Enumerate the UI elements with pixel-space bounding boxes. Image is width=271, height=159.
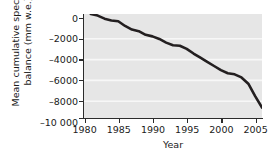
chart-figure: Mean cumulative specific net balance (mm… — [0, 0, 271, 159]
x-tick-label: 1990 — [136, 124, 170, 135]
x-tick-label: 1995 — [170, 124, 204, 135]
x-tick-label: 2000 — [204, 124, 238, 135]
x-tick-mark — [187, 119, 188, 123]
x-tick-label: 1985 — [102, 124, 136, 135]
y-tick-label: –2000 — [32, 34, 78, 44]
x-tick-mark — [119, 119, 120, 123]
data-series-line — [91, 14, 262, 108]
y-axis-spine — [83, 14, 84, 119]
y-axis-ticks: 0 –2000 –4000 –6000 –8000 –10 000 — [30, 0, 78, 159]
x-axis-spine — [83, 118, 263, 119]
x-tick-label: 1980 — [68, 124, 102, 135]
y-tick-mark — [79, 118, 83, 119]
y-tick-label: –4000 — [32, 55, 78, 65]
y-tick-mark — [79, 80, 83, 81]
x-tick-mark — [221, 119, 222, 123]
x-tick-mark — [153, 119, 154, 123]
y-tick-label: –8000 — [32, 97, 78, 107]
y-tick-mark — [79, 39, 83, 40]
y-axis-label-line1: Mean cumulative specific net — [10, 0, 22, 107]
plot-svg — [84, 14, 262, 118]
gridlines — [84, 39, 262, 101]
x-axis-label: Year — [84, 139, 262, 150]
y-tick-mark — [79, 18, 83, 19]
y-tick-mark — [79, 59, 83, 60]
x-tick-label: 2005 — [239, 124, 271, 135]
y-tick-label: –6000 — [32, 76, 78, 86]
x-tick-mark — [85, 119, 86, 123]
y-tick-mark — [79, 101, 83, 102]
plot-area — [84, 14, 262, 118]
x-tick-mark — [256, 119, 257, 123]
y-tick-label: 0 — [32, 14, 78, 24]
